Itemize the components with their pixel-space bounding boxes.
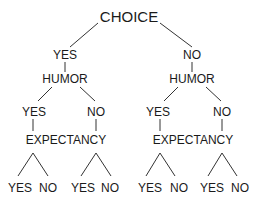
choice-no-node: NO — [183, 49, 201, 61]
tree-edge — [164, 87, 178, 101]
tree-edge — [160, 23, 192, 47]
humor-node-right: HUMOR — [169, 73, 214, 85]
tree-edge — [222, 153, 237, 176]
leaf-node: YES — [200, 182, 224, 194]
tree-edge — [146, 153, 160, 176]
humor-yes-node-right: YES — [146, 106, 170, 118]
tree-edge — [70, 23, 98, 47]
tree-edge — [80, 87, 95, 101]
tree-edge — [38, 87, 52, 101]
tree-edges — [0, 0, 255, 203]
choice-yes-node: YES — [53, 49, 77, 61]
leaf-node: YES — [71, 182, 95, 194]
tree-edge — [96, 153, 111, 176]
tree-edge — [81, 153, 96, 176]
humor-yes-node-left: YES — [22, 106, 46, 118]
tree-edge — [206, 87, 221, 101]
leaf-node: YES — [8, 182, 32, 194]
choice-tree-diagram: CHOICE YES NO HUMOR HUMOR YES NO YES NO … — [0, 0, 255, 203]
expectancy-node-right: EXPECTANCY — [153, 134, 233, 146]
tree-edge — [160, 153, 175, 176]
humor-node-left: HUMOR — [42, 73, 87, 85]
humor-no-node-right: NO — [213, 106, 231, 118]
leaf-node: NO — [101, 182, 119, 194]
tree-edge — [33, 153, 48, 176]
leaf-node: YES — [138, 182, 162, 194]
leaf-node: NO — [39, 182, 57, 194]
humor-no-node-left: NO — [87, 106, 105, 118]
tree-edge — [208, 153, 222, 176]
leaf-node: NO — [231, 182, 249, 194]
root-node-choice: CHOICE — [100, 9, 158, 24]
leaf-node: NO — [170, 182, 188, 194]
expectancy-node-left: EXPECTANCY — [26, 134, 106, 146]
tree-edge — [18, 153, 33, 176]
